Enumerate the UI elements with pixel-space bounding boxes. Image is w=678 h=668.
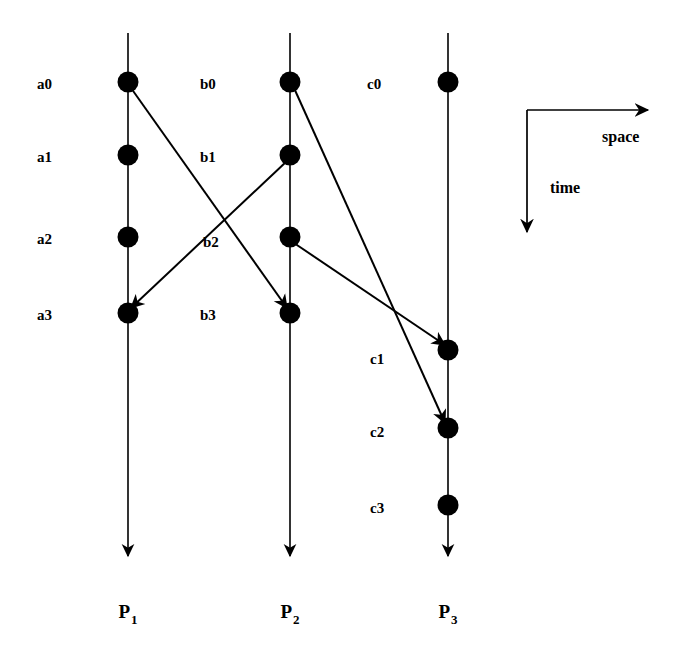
event-label-a0: a0 (37, 76, 52, 92)
event-dot-a0[interactable] (118, 72, 139, 93)
process-label-base: P (118, 601, 130, 622)
event-label-c3: c3 (370, 500, 384, 516)
event-dot-c0[interactable] (438, 72, 459, 93)
message-arrow-b1-a3 (131, 161, 287, 308)
process-label-subscript: 1 (131, 612, 138, 627)
process-group-p1: a0 a1 a2 a3 P1 (37, 33, 139, 627)
event-dot-a1[interactable] (118, 145, 139, 166)
event-label-b2: b2 (203, 234, 219, 250)
message-arrows (131, 88, 445, 423)
axes-key: space time (527, 110, 648, 232)
message-arrow-b2-c1 (294, 243, 445, 345)
space-axis-label: space (602, 128, 639, 146)
event-label-b3: b3 (200, 307, 216, 323)
event-label-c0: c0 (367, 76, 381, 92)
process-group-p3: c0 c1 c2 c3 P3 (367, 33, 459, 627)
process-label-p1: P1 (118, 601, 137, 627)
message-arrow-b0-c2 (294, 88, 445, 423)
event-dot-b3[interactable] (280, 303, 301, 324)
event-label-a2: a2 (37, 231, 52, 247)
event-dot-b1[interactable] (280, 145, 301, 166)
event-dot-c2[interactable] (438, 418, 459, 439)
space-time-diagram: a0 a1 a2 a3 P1 b0 b1 b2 b3 P2 c0 (0, 0, 678, 668)
event-label-c2: c2 (370, 424, 384, 440)
process-label-base: P (438, 601, 450, 622)
process-label-subscript: 3 (451, 612, 458, 627)
event-label-a1: a1 (37, 149, 52, 165)
diagram-canvas: a0 a1 a2 a3 P1 b0 b1 b2 b3 P2 c0 (0, 0, 678, 668)
event-label-c1: c1 (370, 351, 384, 367)
process-label-subscript: 2 (293, 612, 300, 627)
event-dot-a3[interactable] (118, 303, 139, 324)
event-label-b1: b1 (200, 149, 216, 165)
process-label-p2: P2 (280, 601, 299, 627)
event-dot-b0[interactable] (280, 72, 301, 93)
event-dot-c3[interactable] (438, 495, 459, 516)
process-group-p2: b0 b1 b2 b3 P2 (200, 33, 301, 627)
process-label-base: P (280, 601, 292, 622)
message-arrow-a0-b3 (131, 88, 287, 308)
event-label-b0: b0 (200, 76, 216, 92)
event-dot-a2[interactable] (118, 227, 139, 248)
event-label-a3: a3 (37, 307, 52, 323)
process-label-p3: P3 (438, 601, 458, 627)
time-axis-label: time (550, 179, 580, 196)
